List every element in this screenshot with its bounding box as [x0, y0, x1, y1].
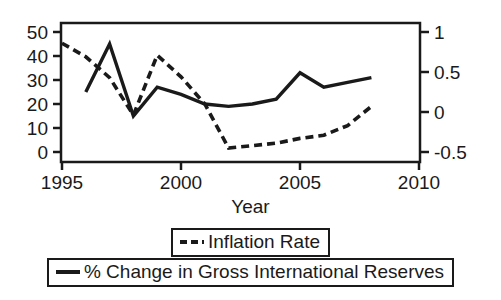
solid-line-swatch-icon	[55, 264, 81, 280]
legend-item-inflation[interactable]: Inflation Rate	[171, 228, 330, 257]
y-axis-right-ticks	[420, 32, 429, 152]
y-axis-left-labels: 50 40 30 20 10 0	[27, 22, 48, 163]
x-axis-title: Year	[231, 196, 269, 217]
legend-inflation-row: Inflation Rate	[0, 228, 501, 257]
y-left-tick-20: 20	[27, 94, 48, 115]
x-tick-2000: 2000	[160, 172, 202, 190]
y-left-tick-30: 30	[27, 70, 48, 91]
legend-reserves-row: % Change in Gross International Reserves	[0, 258, 501, 287]
x-tick-2010: 2010	[398, 172, 440, 190]
y-left-tick-10: 10	[27, 118, 48, 139]
x-axis-labels: 1995 2000 2005 2010	[41, 172, 440, 190]
plot-frame	[61, 23, 420, 162]
y-left-tick-50: 50	[27, 22, 48, 43]
chart-figure: 50 40 30 20 10 0 1 0.5 0 -0.5	[0, 0, 501, 300]
y-right-tick-0-5: 0.5	[434, 62, 460, 83]
legend-item-reserves[interactable]: % Change in Gross International Reserves	[47, 258, 454, 287]
x-axis-title-wrap: Year	[0, 196, 501, 218]
legend-label-inflation: Inflation Rate	[208, 231, 320, 253]
x-tick-2005: 2005	[279, 172, 321, 190]
y-right-tick-1: 1	[434, 22, 445, 43]
y-right-tick-0: 0	[434, 102, 445, 123]
legend-label-reserves: % Change in Gross International Reserves	[84, 261, 444, 283]
x-tick-1995: 1995	[41, 172, 83, 190]
y-left-tick-40: 40	[27, 46, 48, 67]
plot-area: 50 40 30 20 10 0 1 0.5 0 -0.5	[0, 0, 501, 190]
dashed-line-swatch-icon	[179, 234, 205, 250]
chart-svg: 50 40 30 20 10 0 1 0.5 0 -0.5	[0, 0, 501, 190]
y-left-tick-0: 0	[37, 142, 48, 163]
y-right-tick-neg-0-5: -0.5	[434, 142, 467, 163]
y-axis-right-labels: 1 0.5 0 -0.5	[434, 22, 467, 163]
